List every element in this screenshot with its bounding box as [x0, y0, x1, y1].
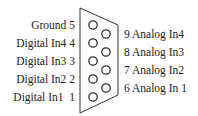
pin-4-label: Digital In4 4: [16, 36, 75, 50]
pin-6-label: 6 Analog In 1: [124, 81, 187, 95]
pin-1-hole: [89, 93, 97, 101]
pin-5-hole: [89, 21, 97, 29]
pin-4-hole: [89, 39, 97, 47]
pin-1-label: Digital In1 1: [13, 90, 75, 104]
pin-2-label: Digital In2 2: [16, 72, 75, 86]
pin-3-hole: [89, 57, 97, 65]
pin-8-hole: [102, 48, 110, 56]
pin-2-hole: [89, 75, 97, 83]
pin-9-hole: [102, 30, 110, 38]
pin-holes: [89, 21, 110, 101]
pin-5-label: Ground 5: [31, 18, 75, 32]
pin-3-label: Digital In3 3: [16, 54, 75, 68]
pin-8-label: 8 Analog In3: [124, 45, 184, 59]
pin-6-hole: [102, 84, 110, 92]
pin-9-label: 9 Analog In4: [124, 27, 184, 41]
pin-7-label: 7 Analog In2: [124, 63, 184, 77]
connector-outline: [80, 8, 118, 113]
pin-7-hole: [102, 66, 110, 74]
